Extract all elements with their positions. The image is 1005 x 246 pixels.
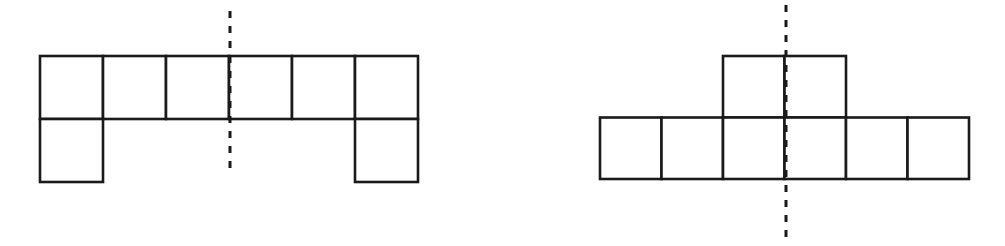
grid-cell — [40, 56, 103, 119]
grid-cell — [40, 119, 103, 182]
grid-cell — [723, 118, 785, 180]
grid-cell — [908, 118, 970, 180]
grid-cell — [846, 118, 908, 180]
grid-cell — [785, 56, 847, 118]
grid-cell — [355, 119, 418, 182]
right-polyomino-figure — [600, 5, 969, 239]
grid-cell — [723, 56, 785, 118]
left-polyomino-figure — [40, 11, 418, 182]
figures-canvas — [0, 0, 1005, 246]
polyomino-figures-svg — [0, 0, 1005, 246]
grid-cell — [292, 56, 355, 119]
grid-cell — [166, 56, 229, 119]
grid-cell — [355, 56, 418, 119]
grid-cell — [600, 118, 662, 180]
grid-cell — [662, 118, 724, 180]
grid-cell — [785, 118, 847, 180]
grid-cell — [229, 56, 292, 119]
grid-cell — [103, 56, 166, 119]
